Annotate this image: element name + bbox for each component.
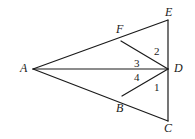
angle-label-4: 4 — [134, 72, 140, 83]
angle-label-1: 1 — [154, 82, 160, 93]
segments-group — [33, 20, 168, 121]
vertex-label-F: F — [116, 23, 123, 35]
segment-FD — [121, 41, 168, 69]
segment-BD — [122, 69, 168, 96]
geometry-figure: A E C D F B 1 2 3 4 — [0, 0, 195, 139]
segment-AE — [33, 20, 168, 69]
angle-label-2: 2 — [154, 46, 160, 57]
vertex-label-C: C — [164, 122, 172, 134]
geometry-canvas — [0, 0, 195, 139]
angle-label-3: 3 — [134, 58, 140, 69]
vertex-label-D: D — [174, 62, 183, 74]
vertex-label-E: E — [165, 6, 172, 18]
vertex-label-B: B — [116, 102, 123, 114]
vertex-label-A: A — [20, 62, 27, 74]
segment-AC — [33, 69, 168, 121]
